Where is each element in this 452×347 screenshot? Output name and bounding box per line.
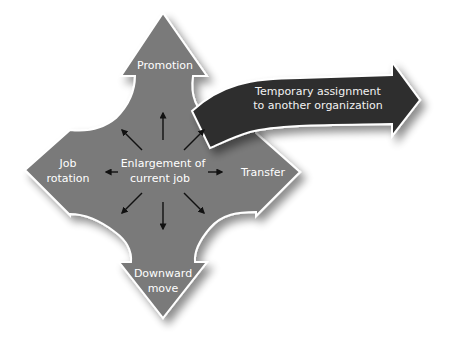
- external-assignment-label-line1: Temporary assignment: [254, 85, 382, 98]
- job-rotation-label-line2: rotation: [46, 172, 89, 185]
- downward-move-label-line2: move: [148, 282, 179, 295]
- promotion-label: Promotion: [137, 59, 193, 72]
- job-rotation-label-line1: Job: [59, 157, 77, 170]
- external-assignment-label-line2: to another organization: [253, 99, 382, 112]
- center-label-line1: Enlargement of: [121, 157, 207, 170]
- career-options-diagram: Promotion Job rotation Enlargement of cu…: [0, 0, 452, 347]
- downward-move-label-line1: Downward: [134, 267, 192, 280]
- center-label-line2: current job: [130, 172, 190, 185]
- transfer-label: Transfer: [240, 166, 286, 179]
